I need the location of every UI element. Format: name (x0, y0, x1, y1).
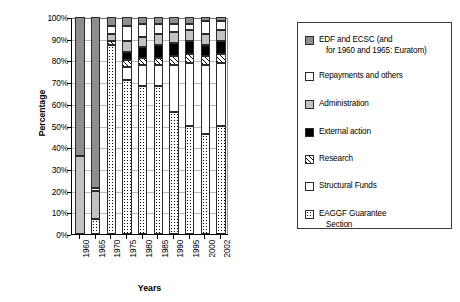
legend-swatch-icon (305, 36, 314, 45)
legend-label: EDF and ECSC (andfor 1960 and 1965: Eura… (319, 35, 427, 56)
legend-label: EAGGF GuaranteeSection (319, 209, 386, 230)
bar-segment-eaggf-guarantee-section (91, 219, 100, 234)
legend-swatch-icon (305, 100, 314, 109)
x-axis-tick (220, 235, 221, 239)
bar-segment-structural-funds (185, 63, 194, 126)
stacked-bar (185, 18, 194, 234)
bar-segment-administration (122, 41, 131, 52)
x-axis-tick (110, 235, 111, 239)
legend-swatch-icon (305, 210, 314, 219)
bar-segment-eaggf-guarantee-section (154, 86, 163, 234)
bar-segment-eaggf-guarantee-section (122, 80, 131, 234)
legend-item[interactable]: Repayments and others (305, 71, 403, 82)
bar-segment-repayments-and-others (91, 188, 100, 190)
legend-item[interactable]: Research (305, 154, 353, 165)
bar-segment-eaggf-guarantee-section (169, 112, 178, 234)
legend-label-line1: EAGGF Guarantee (319, 209, 386, 218)
x-axis-tick (157, 235, 158, 239)
bar-segment-administration (91, 191, 100, 219)
bar-segment-external-action (216, 41, 225, 54)
legend-label-line2: Section (319, 220, 386, 231)
bar-segment-repayments-and-others (107, 26, 116, 35)
legend-label: Research (319, 154, 353, 165)
y-axis-tick-label: 80% (52, 56, 68, 66)
bar-segment-edf-and-ecsc (154, 17, 163, 24)
bar-segment-eaggf-guarantee-section (216, 126, 225, 235)
bar-segment-administration (201, 34, 210, 45)
x-axis-tick-label: 1975 (129, 240, 138, 257)
bar-segment-eaggf-guarantee-section (201, 134, 210, 234)
x-axis-tick (189, 235, 190, 239)
bar-segment-edf-and-ecsc (122, 17, 131, 26)
stacked-bar (216, 18, 225, 234)
bar-segment-repayments-and-others (216, 21, 225, 30)
bar-segment-structural-funds (201, 65, 210, 134)
bar-segment-administration (75, 156, 84, 234)
bar-column (169, 18, 178, 234)
bar-segment-research (216, 54, 225, 63)
legend-label: Administration (319, 99, 369, 110)
bar-segment-structural-funds (138, 65, 147, 87)
bar-segment-edf-and-ecsc (75, 17, 84, 156)
x-axis-tick-label: 1980 (145, 240, 154, 257)
bar-column (185, 18, 194, 234)
bar-segment-research (201, 56, 210, 65)
legend-label-line1: Research (319, 154, 353, 163)
y-axis-tick-label: 20% (52, 187, 68, 197)
stacked-bar (154, 18, 163, 234)
legend-label: External action (319, 127, 371, 138)
bar-segment-eaggf-guarantee-section (138, 86, 147, 234)
bar-segment-repayments-and-others (154, 24, 163, 35)
legend-label: Repayments and others (319, 71, 403, 82)
bar-segment-edf-and-ecsc (91, 17, 100, 188)
bar-segment-research (107, 41, 116, 45)
legend-label: Structural Funds (319, 181, 377, 192)
bar-segment-edf-and-ecsc (185, 17, 194, 24)
y-axis-tick-label: 30% (52, 165, 68, 175)
bar-segment-structural-funds (216, 63, 225, 126)
stacked-bar (201, 18, 210, 234)
bar-segment-structural-funds (154, 65, 163, 87)
bar-column (122, 18, 131, 234)
stacked-bar (169, 18, 178, 234)
stacked-bar (107, 18, 116, 234)
bar-column (91, 18, 100, 234)
bar-segment-external-action (185, 41, 194, 54)
bar-segment-repayments-and-others (122, 26, 131, 41)
legend-item[interactable]: Administration (305, 99, 369, 110)
x-axis-title: Years (71, 283, 228, 293)
legend-swatch-icon (305, 128, 314, 137)
bar-segment-edf-and-ecsc (107, 17, 116, 26)
legend-label-line1: EDF and ECSC (and (319, 35, 392, 44)
x-axis-tick (204, 235, 205, 239)
y-axis-tick-label: 50% (52, 122, 68, 132)
legend-item[interactable]: Structural Funds (305, 181, 377, 192)
bar-segment-external-action (201, 45, 210, 56)
x-axis-tick-label: 1995 (192, 240, 201, 257)
y-axis-tick-label: 70% (52, 78, 68, 88)
legend-label-line1: Administration (319, 99, 369, 108)
legend-label-line2: for 1960 and 1965: Euratom) (319, 46, 427, 57)
legend-swatch-icon (305, 182, 314, 191)
x-axis-tick (142, 235, 143, 239)
x-axis-tick-label: 2000 (208, 240, 217, 257)
bar-segment-external-action (169, 43, 178, 56)
legend-item[interactable]: External action (305, 127, 371, 138)
legend-label-line1: Structural Funds (319, 181, 377, 190)
bar-segment-administration (169, 32, 178, 43)
legend-item[interactable]: EDF and ECSC (andfor 1960 and 1965: Eura… (305, 35, 427, 56)
plot-area (71, 18, 228, 235)
y-axis-tick-label: 100% (47, 13, 68, 23)
y-axis-tick-label: 40% (52, 143, 68, 153)
bar-segment-research (138, 58, 147, 65)
bar-segment-repayments-and-others (169, 24, 178, 33)
legend-item[interactable]: EAGGF GuaranteeSection (305, 209, 386, 230)
x-axis-labels: 1960196519701975198019851990199520002002 (71, 240, 228, 280)
stacked-bar (138, 18, 147, 234)
bar-column (216, 18, 225, 234)
legend-label-line1: Repayments and others (319, 71, 403, 80)
y-axis-tick-label: 60% (52, 100, 68, 110)
bar-segment-edf-and-ecsc (138, 17, 147, 24)
bar-segment-administration (185, 30, 194, 41)
legend-label-line1: External action (319, 127, 371, 136)
